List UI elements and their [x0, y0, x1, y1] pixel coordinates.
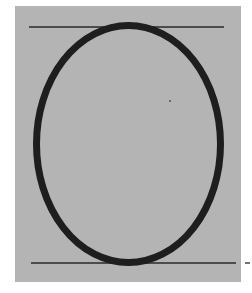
letter-o-figure [0, 0, 252, 293]
letter-o-oval [37, 26, 221, 263]
speck-mark [169, 100, 171, 102]
